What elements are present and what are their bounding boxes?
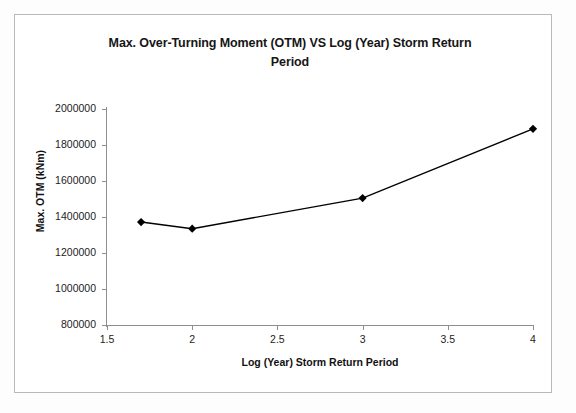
- x-tick-mark: [363, 325, 364, 330]
- y-axis-title: Max. OTM (kNm): [34, 131, 46, 251]
- y-tick-label: 1800000: [0, 138, 96, 150]
- x-tick-label: 2.5: [257, 333, 297, 345]
- y-tick-mark: [102, 217, 107, 218]
- x-tick-label: 2: [172, 333, 212, 345]
- x-tick-mark: [107, 325, 108, 330]
- x-tick-label: 1.5: [87, 333, 127, 345]
- y-tick-label: 800000: [0, 318, 96, 330]
- y-tick-mark: [102, 181, 107, 182]
- y-tick-label: 1200000: [0, 246, 96, 258]
- x-tick-mark: [277, 325, 278, 330]
- y-tick-mark: [102, 109, 107, 110]
- y-tick-mark: [102, 145, 107, 146]
- x-axis-line: [106, 325, 534, 326]
- chart-title: Max. Over-Turning Moment (OTM) VS Log (Y…: [70, 34, 510, 72]
- y-tick-label: 2000000: [0, 102, 96, 114]
- y-tick-label: 1400000: [0, 210, 96, 222]
- x-tick-label: 3: [343, 333, 383, 345]
- x-tick-mark: [192, 325, 193, 330]
- x-tick-mark: [448, 325, 449, 330]
- x-tick-mark: [533, 325, 534, 330]
- y-tick-mark: [102, 253, 107, 254]
- x-tick-label: 3.5: [428, 333, 468, 345]
- y-tick-label: 1000000: [0, 282, 96, 294]
- y-tick-mark: [102, 289, 107, 290]
- x-tick-label: 4: [513, 333, 553, 345]
- scanned-page-background: Max. Over-Turning Moment (OTM) VS Log (Y…: [0, 0, 576, 413]
- chart-title-line-1: Max. Over-Turning Moment (OTM) VS Log (Y…: [109, 36, 472, 50]
- x-axis-title: Log (Year) Storm Return Period: [107, 356, 533, 368]
- chart-title-line-2: Period: [271, 55, 309, 69]
- y-tick-label: 1600000: [0, 174, 96, 186]
